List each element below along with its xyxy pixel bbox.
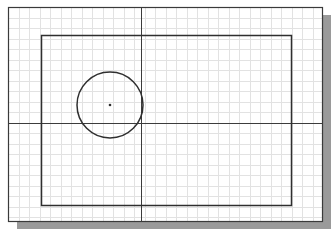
- circle-center-point: [109, 104, 112, 107]
- drawing-canvas: [0, 0, 333, 232]
- cad-drawing: [0, 0, 333, 232]
